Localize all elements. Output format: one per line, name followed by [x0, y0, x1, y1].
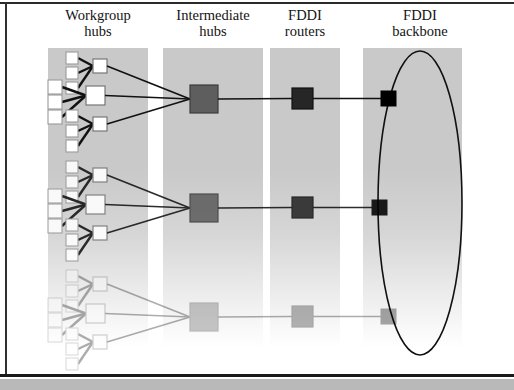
workgroup-hub-node — [86, 304, 105, 323]
link-workstation-to-workgroup-hub — [78, 167, 93, 175]
workstation-node — [66, 358, 78, 370]
link-workgroup-hub-to-intermediate-hub — [107, 99, 190, 124]
link-workstation-to-workgroup-hub — [78, 334, 93, 342]
workstation-node — [66, 161, 78, 173]
workstation-node — [66, 343, 78, 355]
workstation-node — [48, 204, 62, 218]
workstation-node — [48, 328, 62, 342]
fddi-router-node — [292, 306, 313, 327]
fddi-backbone-node — [372, 200, 387, 215]
intermediate-hub-node — [190, 85, 218, 113]
workstation-node — [66, 270, 78, 282]
workgroup-hub-node — [93, 117, 107, 131]
link-workstation-to-workgroup-hub — [78, 58, 93, 66]
link-workgroup-hub-to-intermediate-hub — [105, 314, 190, 318]
group-2-group — [48, 161, 387, 261]
workgroup-hub-node — [93, 335, 107, 349]
link-workstation-to-workgroup-hub — [78, 225, 93, 233]
link-workgroup-hub-to-intermediate-hub — [107, 317, 190, 342]
workstation-node — [48, 313, 62, 327]
link-intermediate-hub-to-router — [218, 317, 292, 318]
workstation-node — [66, 110, 78, 122]
workstation-node — [66, 219, 78, 231]
workstation-node — [66, 125, 78, 137]
group-3-group — [48, 270, 396, 370]
workstation-node — [48, 298, 62, 312]
workstation-node — [66, 234, 78, 246]
workstation-node — [48, 80, 62, 94]
workgroup-hub-node — [93, 59, 107, 73]
link-workgroup-hub-to-intermediate-hub — [107, 175, 190, 208]
workgroup-hub-node — [86, 86, 105, 105]
workgroup-hub-node — [93, 168, 107, 182]
link-intermediate-hub-to-router — [218, 208, 292, 209]
link-workgroup-hub-to-intermediate-hub — [105, 205, 190, 209]
workstation-node — [48, 189, 62, 203]
intermediate-hub-node — [190, 303, 218, 331]
workstation-node — [66, 328, 78, 340]
workstation-node — [48, 219, 62, 233]
link-workstation-to-workgroup-hub — [78, 276, 93, 284]
fddi-router-node — [292, 197, 313, 218]
intermediate-hub-node — [190, 194, 218, 222]
workgroup-hub-node — [93, 277, 107, 291]
workstation-node — [48, 110, 62, 124]
fddi-router-node — [292, 88, 313, 109]
group-1-group — [48, 52, 396, 152]
workstation-node — [66, 52, 78, 64]
workstation-node — [66, 249, 78, 261]
link-workstation-to-workgroup-hub — [78, 116, 93, 124]
workstation-node — [66, 285, 78, 297]
link-workgroup-hub-to-intermediate-hub — [107, 284, 190, 317]
fddi-backbone-node — [381, 91, 396, 106]
workstation-node — [66, 140, 78, 152]
diagram-page: WorkgrouphubsIntermediatehubsFDDIrouters… — [0, 0, 514, 390]
link-intermediate-hub-to-router — [218, 99, 292, 100]
workstation-node — [48, 95, 62, 109]
link-workgroup-hub-to-intermediate-hub — [105, 96, 190, 100]
workstation-node — [66, 67, 78, 79]
link-workgroup-hub-to-intermediate-hub — [107, 66, 190, 99]
link-workgroup-hub-to-intermediate-hub — [107, 208, 190, 233]
workstation-node — [66, 176, 78, 188]
network-topology-canvas — [0, 0, 514, 390]
fddi-backbone-node — [381, 309, 396, 324]
workgroup-hub-node — [93, 226, 107, 240]
workgroup-hub-node — [86, 195, 105, 214]
